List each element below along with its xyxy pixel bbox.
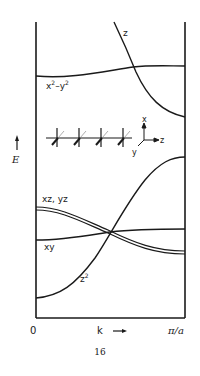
up-arrow-icon xyxy=(15,135,19,141)
inset-axes xyxy=(138,123,159,146)
label-z2: z2 xyxy=(80,272,89,284)
label-x2-y2: x2–y2 xyxy=(46,79,69,91)
band-xz-yz xyxy=(36,207,185,254)
energy-axis: E xyxy=(11,135,20,165)
inset-axis-z: z xyxy=(160,136,164,145)
label-xy: xy xyxy=(44,242,55,252)
energy-axis-label: E xyxy=(11,154,20,165)
page-number: 16 xyxy=(94,347,106,357)
band-x2-y2 xyxy=(36,66,185,77)
inset-axis-y: y xyxy=(132,148,137,157)
inset-chain xyxy=(46,128,132,147)
label-xz-yz: xz, yz xyxy=(42,194,68,204)
inset-axis-x: x xyxy=(142,115,147,124)
y-axis-line xyxy=(138,140,144,146)
label-z: z xyxy=(123,28,128,38)
band-structure-diagram: z x2–y2 xz, yz xy z2 xyxy=(0,0,200,376)
k-axis-left-tick: 0 xyxy=(30,325,36,336)
k-axis-label: k xyxy=(97,325,103,336)
z-arrowhead-icon xyxy=(154,138,159,142)
k-axis-right-tick: π/a xyxy=(167,325,184,336)
right-arrow-icon xyxy=(113,329,127,333)
band-z2 xyxy=(36,157,185,298)
